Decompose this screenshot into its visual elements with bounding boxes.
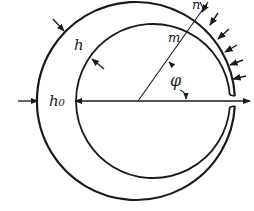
label-h: h — [74, 36, 84, 54]
pressure-arrow-icon — [210, 13, 218, 25]
h-inner-arrow — [92, 59, 104, 69]
label-h0: h₀ — [49, 92, 65, 110]
phi-arrow-radial — [169, 62, 173, 66]
label-m: m — [168, 30, 180, 45]
pressure-arrow-icon — [233, 76, 246, 79]
pressure-arrow-icon — [230, 60, 243, 65]
ring-diagram: n m h h₀ φ — [0, 0, 254, 211]
phi-arc-arrow — [180, 90, 186, 99]
pressure-arrows — [202, 4, 246, 79]
label-phi: φ — [170, 71, 182, 90]
slit-cap-top — [230, 95, 235, 96]
pressure-arrow-icon — [225, 45, 237, 52]
pressure-arrow-icon — [218, 29, 229, 39]
label-n: n — [192, 0, 200, 12]
h-outer-arrow — [53, 19, 64, 31]
slit-cap-bottom — [230, 106, 235, 107]
